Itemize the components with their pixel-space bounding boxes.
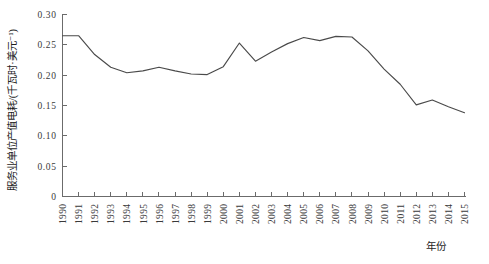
x-tick-label: 2007	[331, 204, 341, 225]
y-tick-label: 0.15	[37, 101, 56, 111]
x-tick-label: 2002	[251, 204, 261, 225]
x-tick-label: 1993	[106, 204, 116, 225]
y-tick-label: 0	[51, 192, 56, 202]
x-tick-label: 1997	[171, 204, 181, 225]
chart-figure: 00.050.100.150.200.250.30 19901991199219…	[0, 0, 489, 264]
x-tick-label: 2005	[299, 204, 309, 225]
series-line	[63, 36, 465, 113]
x-tick-label: 2008	[348, 204, 358, 225]
x-tick-label: 1999	[203, 204, 213, 225]
x-tick-label: 1990	[58, 204, 68, 225]
x-tick-label: 2010	[380, 204, 390, 225]
x-tick-label: 1994	[122, 204, 132, 225]
x-tick-label: 2003	[267, 204, 277, 225]
x-axis: 1990199119921993199419951996199719981999…	[58, 192, 470, 224]
x-tick-label: 2013	[428, 204, 438, 225]
x-tick-label: 2006	[315, 204, 325, 225]
x-axis-title: 年份	[426, 240, 447, 252]
x-tick-label: 2011	[396, 204, 406, 224]
x-tick-label: 2000	[219, 204, 229, 225]
data-series	[63, 36, 465, 113]
x-tick-label: 2001	[235, 204, 245, 225]
x-tick-label: 1996	[155, 204, 165, 225]
x-tick-label: 1992	[90, 204, 100, 225]
y-tick-label: 0.25	[37, 40, 56, 50]
y-tick-label: 0.20	[37, 71, 56, 81]
line-chart: 00.050.100.150.200.250.30 19901991199219…	[0, 0, 489, 264]
x-tick-label: 2015	[460, 204, 470, 225]
y-axis-title: 服务业单位产值电耗/(千瓦时·美元⁻¹)	[6, 28, 19, 191]
y-tick-label: 0.30	[37, 10, 56, 20]
x-tick-label: 2014	[444, 204, 454, 225]
y-axis: 00.050.100.150.200.250.30	[37, 10, 67, 202]
x-tick-label: 1998	[187, 204, 197, 225]
x-tick-label: 2012	[412, 204, 422, 225]
y-tick-label: 0.10	[37, 131, 56, 141]
x-tick-label: 1991	[74, 204, 84, 225]
x-tick-label: 1995	[139, 204, 149, 225]
y-tick-label: 0.05	[37, 162, 56, 172]
x-tick-label: 2004	[283, 204, 293, 225]
x-tick-label: 2009	[364, 204, 374, 225]
